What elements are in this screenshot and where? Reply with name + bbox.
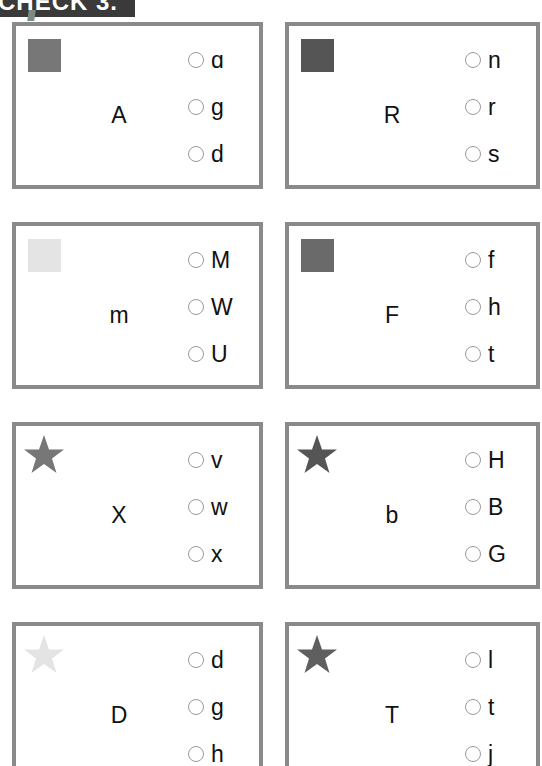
option-3[interactable]: U [188,340,228,368]
radio-button[interactable] [188,299,204,315]
section-banner: CHECK 3. [0,0,135,17]
option-label: w [211,493,228,521]
radio-button[interactable] [188,52,204,68]
radio-button[interactable] [465,146,481,162]
option-2[interactable]: r [465,93,496,121]
letter-card-D: D d g h [12,622,263,766]
option-label: v [211,446,223,474]
option-label: g [211,693,224,721]
radio-button[interactable] [188,146,204,162]
radio-button[interactable] [465,452,481,468]
star-icon [28,639,61,672]
option-label: x [211,540,223,568]
radio-button[interactable] [465,252,481,268]
option-3[interactable]: j [465,740,493,766]
option-3[interactable]: d [188,140,224,168]
option-label: f [488,246,494,274]
radio-button[interactable] [465,52,481,68]
target-letter: D [99,701,139,729]
option-3[interactable]: G [465,540,506,568]
letter-card-T: T l t j [285,622,540,766]
target-letter: T [372,701,412,729]
worksheet-page: CHECK 3. A ɑ g d R n r s m M W U F f [0,0,542,766]
option-3[interactable]: h [188,740,224,766]
option-label: t [488,693,494,721]
radio-button[interactable] [465,299,481,315]
radio-button[interactable] [465,99,481,115]
option-label: n [488,46,501,74]
target-letter: m [99,301,139,329]
option-1[interactable]: n [465,46,501,74]
radio-button[interactable] [465,546,481,562]
option-label: d [211,646,224,674]
radio-button[interactable] [465,499,481,515]
option-2[interactable]: B [465,493,503,521]
target-letter: b [372,501,412,529]
option-label: M [211,246,230,274]
option-label: t [488,340,494,368]
radio-button[interactable] [188,499,204,515]
letter-card-m: m M W U [12,222,263,389]
radio-button[interactable] [188,252,204,268]
option-1[interactable]: M [188,246,230,274]
radio-button[interactable] [188,746,204,762]
option-label: l [488,646,493,674]
star-icon [28,439,61,472]
target-letter: X [99,501,139,529]
option-1[interactable]: d [188,646,224,674]
option-1[interactable]: H [465,446,505,474]
letter-card-F: F f h t [285,222,540,389]
option-label: g [211,93,224,121]
option-2[interactable]: g [188,693,224,721]
target-letter: F [372,301,412,329]
option-2[interactable]: g [188,93,224,121]
option-label: U [211,340,228,368]
option-3[interactable]: x [188,540,223,568]
star-icon [301,639,334,672]
option-1[interactable]: f [465,246,494,274]
option-2[interactable]: w [188,493,228,521]
letter-card-R: R n r s [285,22,540,189]
square-icon [28,39,61,72]
option-label: ɑ [211,46,224,74]
option-3[interactable]: t [465,340,494,368]
square-icon [301,239,334,272]
radio-button[interactable] [188,99,204,115]
option-label: s [488,140,500,168]
radio-button[interactable] [188,452,204,468]
letter-card-b: b H B G [285,422,540,589]
target-letter: R [372,101,412,129]
option-1[interactable]: ɑ [188,46,224,74]
radio-button[interactable] [465,699,481,715]
option-label: r [488,93,496,121]
square-icon [28,239,61,272]
radio-button[interactable] [188,546,204,562]
option-2[interactable]: t [465,693,494,721]
option-label: j [488,740,493,766]
letter-card-X: X v w x [12,422,263,589]
option-1[interactable]: v [188,446,223,474]
banner-title: CHECK 3. [0,0,118,15]
option-label: B [488,493,503,521]
radio-button[interactable] [465,346,481,362]
option-3[interactable]: s [465,140,500,168]
option-label: H [488,446,505,474]
radio-button[interactable] [188,346,204,362]
option-2[interactable]: h [465,293,501,321]
option-label: d [211,140,224,168]
square-icon [301,39,334,72]
radio-button[interactable] [188,699,204,715]
option-label: G [488,540,506,568]
option-label: h [211,740,224,766]
star-icon [301,439,334,472]
banner-tab-decoration [27,10,36,21]
letter-card-A: A ɑ g d [12,22,263,189]
option-1[interactable]: l [465,646,493,674]
option-label: h [488,293,501,321]
option-2[interactable]: W [188,293,233,321]
radio-button[interactable] [188,652,204,668]
radio-button[interactable] [465,746,481,762]
target-letter: A [99,101,139,129]
radio-button[interactable] [465,652,481,668]
option-label: W [211,293,233,321]
